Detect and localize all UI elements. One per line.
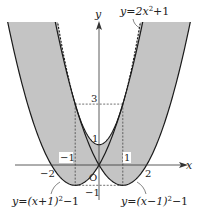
label-right-parabola: y=(x−1)2−1 [120, 195, 188, 208]
label-upper-parabola: y=2x2+1 [119, 5, 169, 18]
origin-label: O [89, 172, 97, 183]
leader-right-parabola [137, 182, 146, 194]
label-left-parabola: y=(x+1)2−1 [11, 195, 79, 208]
y-axis-label: y [94, 8, 102, 21]
x-axis-label: x [186, 159, 193, 172]
y-tick-neg1: −1 [85, 187, 100, 198]
y-tick-1: 1 [92, 133, 98, 144]
function-plot: y x O −2 −1 1 2 3 1 −1 y=2x2+1 y=(x+1)2−… [0, 0, 199, 218]
x-tick-neg1: −1 [60, 152, 75, 163]
y-tick-3: 3 [91, 93, 97, 104]
x-tick-neg2: −2 [40, 168, 55, 179]
x-tick-2: 2 [145, 168, 151, 179]
leader-left-parabola [51, 182, 60, 194]
leader-upper-parabola [133, 19, 140, 28]
x-tick-1: 1 [124, 152, 130, 163]
